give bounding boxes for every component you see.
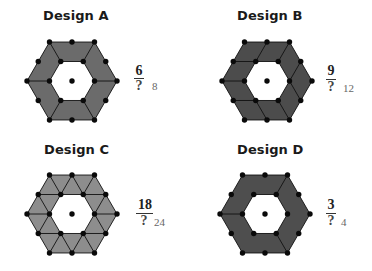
lattice-dot bbox=[285, 250, 290, 255]
lattice-dot bbox=[262, 250, 267, 255]
design-d-fraction-denominator: ? bbox=[324, 213, 338, 229]
lattice-dot bbox=[296, 231, 301, 236]
lattice-dot bbox=[285, 172, 290, 177]
lattice-dot bbox=[229, 192, 234, 197]
lattice-dot bbox=[217, 211, 222, 216]
lattice-dot bbox=[240, 211, 245, 216]
design-d-hexagon-figure bbox=[0, 0, 372, 271]
lattice-dot bbox=[285, 211, 290, 216]
lattice-dot bbox=[307, 211, 312, 216]
lattice-dot bbox=[240, 250, 245, 255]
lattice-dot bbox=[262, 211, 267, 216]
design-d-fraction-numerator: 3 bbox=[324, 197, 338, 213]
lattice-dot bbox=[274, 192, 279, 197]
lattice-dot bbox=[251, 231, 256, 236]
lattice-dot bbox=[240, 172, 245, 177]
lattice-dot bbox=[274, 231, 279, 236]
lattice-dot bbox=[229, 231, 234, 236]
design-d-answer: 4 bbox=[341, 216, 347, 228]
lattice-dot bbox=[296, 192, 301, 197]
lattice-dot bbox=[262, 172, 267, 177]
lattice-dot bbox=[251, 192, 256, 197]
design-d: Design D 3 ? 4 bbox=[0, 0, 372, 271]
